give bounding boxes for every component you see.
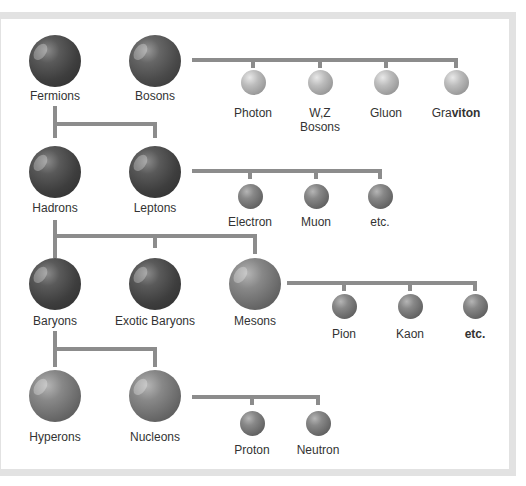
connector-nucleons-bar (192, 395, 320, 399)
node-exotic-baryons (129, 258, 181, 310)
label-leptons-etc: etc. (325, 215, 435, 229)
label-mesons-etc: etc. (420, 327, 526, 341)
connector-gluon-drop (384, 58, 388, 68)
node-leptons-etc (368, 184, 393, 209)
node-leptons (129, 146, 181, 198)
connector-neutron-drop (316, 395, 320, 405)
connector-fermions-bar (53, 122, 157, 126)
label-bosons: Bosons (100, 89, 210, 103)
label-neutron: Neutron (263, 443, 373, 457)
node-wz-bosons (308, 70, 333, 95)
node-kaon (398, 294, 423, 319)
node-gluon (374, 70, 399, 95)
connector-electron-drop (248, 169, 252, 179)
connector-photon-drop (251, 58, 255, 68)
node-pion (332, 294, 357, 319)
node-hyperons (29, 370, 81, 422)
label-mesons: Mesons (200, 314, 310, 328)
label-baryons: Baryons (0, 314, 110, 328)
node-bosons (129, 35, 181, 87)
connector-leptons-bar (192, 169, 382, 173)
connector-proton-drop (250, 395, 254, 405)
connector-wz-drop (318, 58, 322, 68)
node-neutron (306, 411, 331, 436)
connector-nucleons-drop (153, 347, 157, 367)
node-mesons-etc (463, 294, 488, 319)
node-baryons (29, 258, 81, 310)
connector-mesons-bar (287, 281, 477, 285)
node-proton (240, 411, 265, 436)
node-hadrons (29, 146, 81, 198)
node-photon (241, 70, 266, 95)
connector-exotic-drop (153, 234, 157, 248)
connector-baryons-bar (53, 347, 157, 351)
label-hadrons: Hadrons (0, 201, 110, 215)
connector-mesons-drop (253, 234, 257, 254)
connector-kaon-drop (408, 281, 412, 291)
node-mesons (229, 258, 281, 310)
connector-pion-drop (342, 281, 346, 291)
node-electron (238, 184, 263, 209)
label-hyperons: Hyperons (0, 430, 110, 444)
connector-leptons-drop (153, 122, 157, 138)
connector-hadrons-down (53, 220, 57, 258)
node-fermions (29, 35, 81, 87)
connector-mesons-etc-drop (473, 281, 477, 291)
particle-hierarchy-diagram: Fermions Bosons Photon W,Z Bosons Gluon … (0, 0, 526, 486)
label-exotic-baryons: Exotic Baryons (100, 314, 210, 328)
label-nucleons: Nucleons (100, 430, 210, 444)
node-nucleons (129, 370, 181, 422)
connector-muon-drop (314, 169, 318, 179)
label-graviton: Graviton (401, 106, 511, 120)
connector-graviton-drop (454, 58, 458, 68)
label-fermions: Fermions (0, 89, 110, 103)
connector-bosons-bar (192, 58, 458, 62)
label-leptons: Leptons (100, 201, 210, 215)
connector-leptons-etc-drop (378, 169, 382, 179)
node-graviton (444, 70, 469, 95)
node-muon (304, 184, 329, 209)
